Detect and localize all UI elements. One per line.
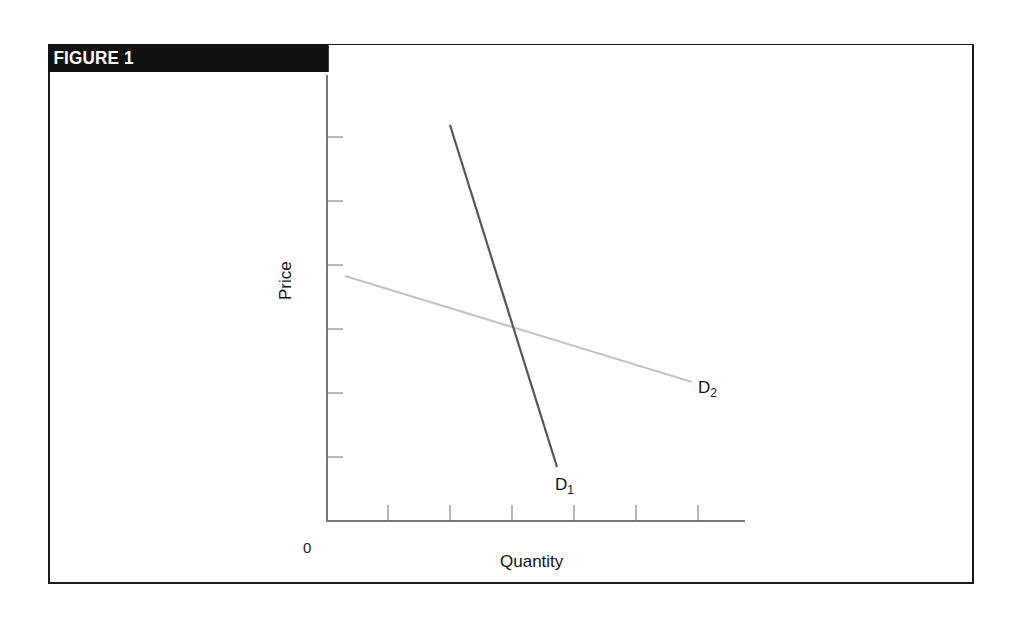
demand-curve-d2 xyxy=(345,276,692,382)
y-axis-label: Price xyxy=(276,261,296,300)
origin-label: 0 xyxy=(303,539,311,556)
demand-curve-d1 xyxy=(450,125,557,467)
x-ticks xyxy=(388,505,698,521)
d1-label: D1 xyxy=(555,475,574,497)
x-axis-label: Quantity xyxy=(500,552,563,572)
chart-plot xyxy=(0,0,1022,623)
d2-label: D2 xyxy=(698,378,717,400)
y-ticks xyxy=(327,137,343,457)
